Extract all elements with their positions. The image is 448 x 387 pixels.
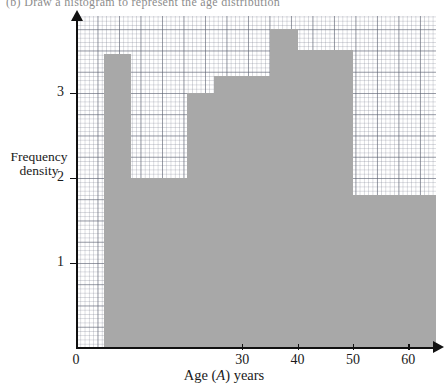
y-axis-tick — [70, 178, 77, 179]
x-axis-tick — [242, 344, 243, 350]
histogram-bar — [298, 50, 353, 348]
y-axis-title-line2: density — [8, 164, 70, 178]
y-axis-line — [76, 16, 78, 348]
y-axis-tick-label: 3 — [46, 84, 64, 100]
y-axis-arrow-icon — [71, 10, 83, 21]
histogram-bar — [131, 178, 186, 348]
x-axis-title: Age (A) years — [0, 367, 448, 384]
x-axis-title-variable: A — [216, 367, 225, 383]
y-axis-tick-label: 1 — [46, 254, 64, 270]
x-axis-tick — [353, 344, 354, 350]
x-axis-tick — [298, 344, 299, 350]
x-axis-title-suffix: ) years — [225, 367, 264, 383]
histogram-bar — [270, 29, 298, 348]
y-axis-title-line1: Frequency — [8, 150, 70, 164]
x-axis-tick-label: 30 — [222, 352, 262, 368]
histogram-bar — [104, 54, 132, 348]
x-axis-tick-label: 0 — [56, 352, 96, 368]
x-axis-tick-label: 60 — [388, 352, 428, 368]
histogram-bar — [353, 195, 436, 348]
x-axis-line — [76, 347, 436, 349]
x-axis-arrow-icon — [433, 341, 444, 353]
plot-area — [76, 16, 436, 348]
x-axis-title-prefix: Age ( — [184, 367, 217, 383]
cropped-header-text: (b) Draw a histogram to represent the ag… — [0, 0, 448, 9]
x-axis-tick-label: 50 — [333, 352, 373, 368]
y-axis-title: Frequency density — [8, 150, 70, 178]
x-axis-tick — [408, 344, 409, 350]
histogram-bar — [187, 93, 215, 348]
y-axis-tick — [70, 263, 77, 264]
x-axis-tick-label: 40 — [278, 352, 318, 368]
histogram-bar — [214, 76, 269, 348]
y-axis-tick — [70, 93, 77, 94]
histogram-figure: (b) Draw a histogram to represent the ag… — [0, 0, 448, 387]
